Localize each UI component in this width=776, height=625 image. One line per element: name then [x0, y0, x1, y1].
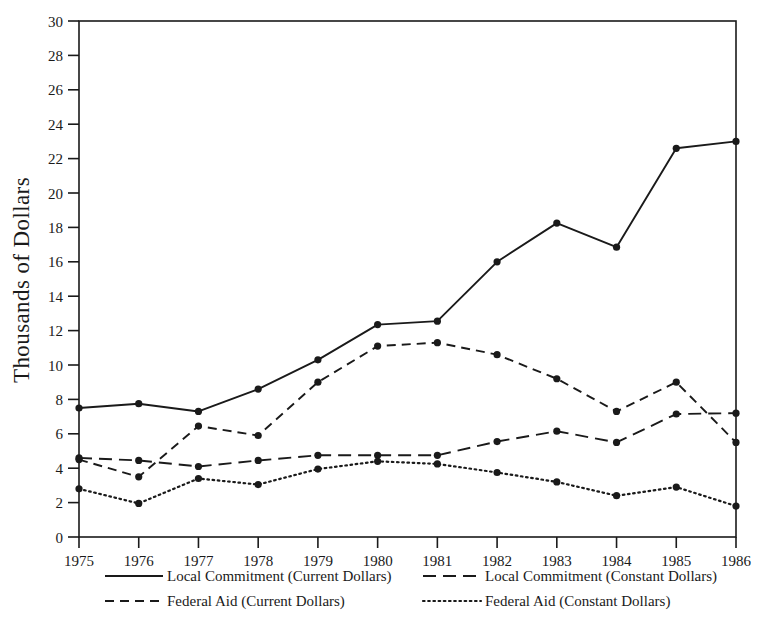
x-tick-label: 1983 — [542, 553, 572, 569]
chart-series — [75, 410, 739, 471]
x-tick-label: 1978 — [243, 553, 273, 569]
y-tick-label: 22 — [48, 151, 63, 167]
data-point-marker — [255, 385, 262, 392]
data-point-marker — [434, 460, 441, 467]
y-tick-label: 16 — [48, 254, 64, 270]
y-tick-label: 8 — [56, 392, 64, 408]
legend-item[interactable]: Local Commitment (Constant Dollars) — [423, 568, 717, 585]
x-tick-label: 1982 — [482, 553, 512, 569]
data-point-marker — [732, 439, 739, 446]
chart-figure: Thousands of Dollars 0246810121416182022… — [0, 0, 776, 625]
data-point-marker — [493, 351, 500, 358]
data-point-marker — [434, 452, 441, 459]
data-point-marker — [434, 318, 441, 325]
data-point-marker — [374, 458, 381, 465]
y-tick-label: 12 — [48, 323, 63, 339]
y-tick-label: 0 — [56, 530, 64, 546]
legend-item[interactable]: Local Commitment (Current Dollars) — [105, 568, 392, 585]
data-point-marker — [434, 339, 441, 346]
x-tick-label: 1976 — [124, 553, 155, 569]
data-point-marker — [75, 456, 82, 463]
series-line — [79, 461, 736, 506]
data-point-marker — [553, 428, 560, 435]
y-tick-label: 18 — [48, 220, 63, 236]
data-point-marker — [732, 410, 739, 417]
data-point-marker — [195, 463, 202, 470]
data-point-marker — [613, 492, 620, 499]
data-point-marker — [314, 465, 321, 472]
chart-legend: Local Commitment (Current Dollars)Local … — [105, 568, 717, 610]
data-point-marker — [255, 481, 262, 488]
legend-label: Federal Aid (Constant Dollars) — [485, 593, 670, 610]
data-point-marker — [135, 457, 142, 464]
data-point-marker — [553, 375, 560, 382]
data-point-marker — [493, 438, 500, 445]
y-tick-label: 6 — [56, 426, 64, 442]
x-tick-label: 1986 — [721, 553, 752, 569]
x-tick-label: 1979 — [303, 553, 333, 569]
data-point-marker — [613, 244, 620, 251]
legend-label: Federal Aid (Current Dollars) — [167, 593, 345, 610]
y-axis-label: Thousands of Dollars — [9, 177, 35, 383]
chart-series — [75, 138, 739, 415]
y-tick-label: 30 — [48, 14, 63, 30]
series-line — [79, 343, 736, 477]
x-axis-ticks: 1975197619771978197919801981198219831984… — [64, 537, 752, 569]
legend-label: Local Commitment (Current Dollars) — [167, 568, 392, 585]
y-axis-label-container: Thousands of Dollars — [0, 0, 44, 560]
data-point-marker — [314, 379, 321, 386]
chart-series — [75, 458, 739, 510]
series-line — [79, 413, 736, 466]
data-point-marker — [75, 404, 82, 411]
y-tick-label: 4 — [56, 461, 64, 477]
data-point-marker — [732, 138, 739, 145]
y-tick-label: 20 — [48, 186, 63, 202]
y-tick-label: 14 — [48, 289, 64, 305]
data-point-marker — [613, 408, 620, 415]
data-point-marker — [135, 500, 142, 507]
data-point-marker — [255, 432, 262, 439]
x-tick-label: 1985 — [661, 553, 691, 569]
series-layer — [75, 138, 739, 510]
x-tick-label: 1984 — [602, 553, 633, 569]
legend-item[interactable]: Federal Aid (Constant Dollars) — [423, 593, 670, 610]
data-point-marker — [673, 410, 680, 417]
y-tick-label: 28 — [48, 48, 63, 64]
data-point-marker — [493, 469, 500, 476]
data-point-marker — [673, 484, 680, 491]
data-point-marker — [195, 475, 202, 482]
y-tick-label: 10 — [48, 358, 63, 374]
data-point-marker — [255, 457, 262, 464]
y-axis-ticks: 024681012141618202224262830 — [48, 14, 79, 546]
data-point-marker — [135, 473, 142, 480]
data-point-marker — [553, 478, 560, 485]
series-line — [79, 141, 736, 411]
data-point-marker — [553, 220, 560, 227]
plot-frame — [79, 21, 736, 537]
x-tick-label: 1980 — [363, 553, 393, 569]
x-tick-label: 1981 — [422, 553, 452, 569]
data-point-marker — [732, 502, 739, 509]
y-tick-label: 26 — [48, 82, 64, 98]
data-point-marker — [314, 356, 321, 363]
data-point-marker — [673, 379, 680, 386]
x-tick-label: 1975 — [64, 553, 94, 569]
data-point-marker — [135, 400, 142, 407]
data-point-marker — [613, 439, 620, 446]
data-point-marker — [75, 485, 82, 492]
data-point-marker — [195, 422, 202, 429]
y-tick-label: 24 — [48, 117, 64, 133]
data-point-marker — [195, 408, 202, 415]
y-tick-label: 2 — [56, 495, 64, 511]
data-point-marker — [314, 452, 321, 459]
data-point-marker — [374, 321, 381, 328]
data-point-marker — [374, 342, 381, 349]
data-point-marker — [493, 258, 500, 265]
legend-item[interactable]: Federal Aid (Current Dollars) — [105, 593, 345, 610]
x-tick-label: 1977 — [183, 553, 214, 569]
data-point-marker — [673, 145, 680, 152]
legend-label: Local Commitment (Constant Dollars) — [485, 568, 717, 585]
chart-svg: 024681012141618202224262830 197519761977… — [0, 0, 776, 625]
chart-series — [75, 339, 739, 480]
